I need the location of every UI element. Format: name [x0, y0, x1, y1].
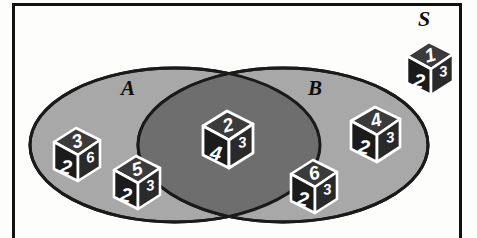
- die-b-1[interactable]: 6 2 3: [285, 156, 343, 218]
- die-a-2[interactable]: 5 2 3: [108, 152, 166, 214]
- set-b-label: B: [308, 78, 322, 99]
- die-b-2[interactable]: 4 2 3: [345, 102, 407, 168]
- universal-set-label: S: [418, 8, 430, 30]
- set-a-label: A: [121, 78, 135, 99]
- die-s-1[interactable]: 1 2 3: [401, 38, 459, 100]
- die-ab-1[interactable]: 2 4 3: [196, 106, 260, 174]
- venn-diagram-figure: A B S 3 2 6 5 2 3 2 4 3: [0, 0, 477, 238]
- die-a-1[interactable]: 3 2 6: [48, 124, 106, 186]
